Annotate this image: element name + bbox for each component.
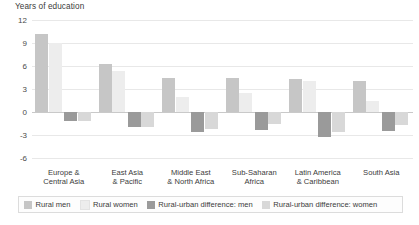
bar[interactable] bbox=[205, 112, 218, 129]
bar[interactable] bbox=[191, 112, 204, 132]
bar-group bbox=[96, 20, 160, 158]
bar[interactable] bbox=[162, 78, 175, 113]
y-axis-tick-label: -6 bbox=[20, 154, 27, 163]
y-axis-tick-label: 6 bbox=[23, 62, 27, 71]
bar-group bbox=[32, 20, 96, 158]
y-axis-title: Years of education bbox=[15, 2, 84, 11]
chart-legend: Rural menRural womenRural-urban differen… bbox=[18, 196, 403, 213]
bar[interactable] bbox=[64, 112, 77, 121]
y-axis-tick-label: 9 bbox=[23, 39, 27, 48]
legend-label: Rural women bbox=[93, 200, 138, 209]
y-axis-tick-label: 12 bbox=[18, 16, 27, 25]
legend-swatch bbox=[262, 201, 270, 209]
category-label: South Asia bbox=[342, 168, 419, 177]
y-axis-tick-label: 3 bbox=[23, 85, 27, 94]
bar[interactable] bbox=[353, 81, 366, 112]
bar-group bbox=[223, 20, 287, 158]
legend-item[interactable]: Rural men bbox=[24, 200, 71, 209]
category-label-line: South Asia bbox=[342, 168, 419, 177]
legend-label: Rural-urban difference: men bbox=[158, 200, 252, 209]
bar[interactable] bbox=[112, 71, 125, 112]
bar[interactable] bbox=[35, 34, 48, 112]
gridline bbox=[32, 158, 413, 159]
bar[interactable] bbox=[303, 81, 316, 112]
y-axis-tick-label: -3 bbox=[20, 131, 27, 140]
bar-group bbox=[286, 20, 350, 158]
legend-label: Rural-urban difference: women bbox=[273, 200, 377, 209]
bar[interactable] bbox=[268, 112, 281, 124]
bar[interactable] bbox=[49, 43, 62, 112]
legend-item[interactable]: Rural women bbox=[80, 200, 138, 210]
bar[interactable] bbox=[255, 112, 268, 130]
legend-swatch bbox=[147, 201, 155, 209]
y-axis-tick-label: 0 bbox=[23, 108, 27, 117]
bar[interactable] bbox=[78, 112, 91, 121]
bar[interactable] bbox=[332, 112, 345, 132]
plot-area: 129630-3-6 bbox=[32, 20, 413, 158]
bar[interactable] bbox=[289, 79, 302, 112]
bar[interactable] bbox=[239, 93, 252, 112]
bar[interactable] bbox=[318, 112, 331, 137]
category-label-line: & Caribbean bbox=[278, 177, 358, 186]
bar[interactable] bbox=[176, 97, 189, 112]
bar[interactable] bbox=[141, 112, 154, 127]
bar[interactable] bbox=[99, 64, 112, 112]
legend-label: Rural men bbox=[36, 200, 71, 209]
bar-group bbox=[159, 20, 223, 158]
legend-swatch bbox=[80, 200, 90, 210]
bar[interactable] bbox=[366, 101, 379, 113]
legend-item[interactable]: Rural-urban difference: men bbox=[147, 200, 253, 209]
bar[interactable] bbox=[128, 112, 141, 127]
bar-group bbox=[350, 20, 414, 158]
bar[interactable] bbox=[382, 112, 395, 131]
bar[interactable] bbox=[395, 112, 408, 125]
legend-item[interactable]: Rural-urban difference: women bbox=[262, 200, 378, 209]
chart-container: Years of education 129630-3-6 Europe &Ce… bbox=[0, 0, 419, 225]
legend-swatch bbox=[24, 201, 32, 209]
bar[interactable] bbox=[226, 78, 239, 112]
